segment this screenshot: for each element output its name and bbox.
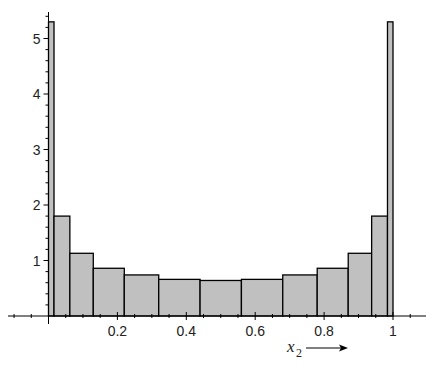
x-axis-label: x 2 xyxy=(286,337,348,360)
histogram-bar-1 xyxy=(54,216,70,316)
histogram-bar-6 xyxy=(200,280,241,316)
histogram-bar-4 xyxy=(124,275,158,316)
histogram-bar-5 xyxy=(159,279,200,316)
x-axis-label-variable: x xyxy=(286,337,295,356)
histogram-chart: 0.20.40.60.81 12345 x 2 xyxy=(0,0,440,377)
y-tick-label: 4 xyxy=(33,86,41,102)
y-tick-label: 3 xyxy=(33,142,41,158)
histogram-bar-7 xyxy=(241,279,282,316)
histogram-bar-3 xyxy=(93,268,124,316)
y-tick-label: 1 xyxy=(33,253,41,269)
x-tick-label: 1 xyxy=(389,323,397,339)
histogram-bar-8 xyxy=(283,275,317,316)
x-tick-label: 0.4 xyxy=(177,323,197,339)
y-ticks-group: 12345 xyxy=(33,16,49,305)
y-tick-label: 2 xyxy=(33,197,41,213)
histogram-bar-2 xyxy=(70,253,93,316)
x-tick-label: 0.8 xyxy=(314,323,334,339)
x-axis-label-subscript: 2 xyxy=(296,346,302,360)
histogram-bar-12 xyxy=(387,22,393,316)
x-tick-label: 0.6 xyxy=(245,323,265,339)
bars-group xyxy=(49,22,394,316)
histogram-bar-0 xyxy=(49,22,55,316)
histogram-bar-11 xyxy=(372,216,388,316)
histogram-bar-10 xyxy=(348,253,371,316)
y-tick-label: 5 xyxy=(33,31,41,47)
histogram-bar-9 xyxy=(317,268,348,316)
x-tick-label: 0.2 xyxy=(108,323,128,339)
